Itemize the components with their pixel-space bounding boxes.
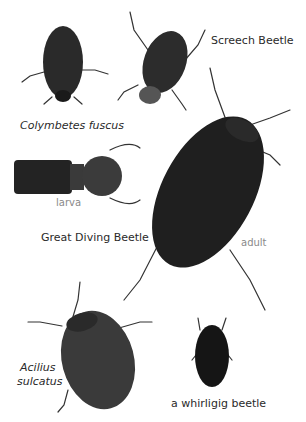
label-great-diving-beetle: Great Diving Beetle xyxy=(41,231,149,244)
label-adult: adult xyxy=(241,237,267,248)
label-screech-beetle: Screech Beetle xyxy=(211,34,294,47)
label-whirligig-beetle: a whirligig beetle xyxy=(171,397,266,410)
label-acilius: Acilius xyxy=(20,361,55,374)
label-sulcatus: sulcatus xyxy=(17,375,63,388)
label-larva: larva xyxy=(56,197,81,208)
beetle-artwork xyxy=(0,0,306,422)
beetle-illustration: Colymbetes fuscus Screech Beetle larva G… xyxy=(0,0,306,422)
label-colymbetes-fuscus: Colymbetes fuscus xyxy=(20,119,124,132)
